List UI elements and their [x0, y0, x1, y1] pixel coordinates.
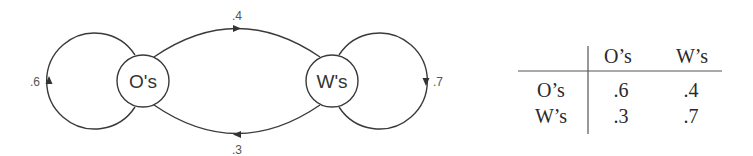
edge-o-to-w [154, 29, 320, 58]
table-cell-w-o: .3 [614, 105, 629, 127]
node-o: O's [117, 55, 169, 107]
arrow-left-icon [233, 131, 241, 138]
edge-label-w-to-o: .3 [232, 143, 242, 156]
node-label-o: O's [129, 71, 157, 92]
edge-label-w-to-w: .7 [433, 75, 443, 89]
table-cell-w-w: .7 [684, 105, 699, 127]
table-col-header-w: W’s [676, 45, 708, 67]
table-cell-o-w: .4 [684, 79, 699, 101]
markov-diagram: .6 .4 .3 .7 O's W's O’s W’s O’s .6 .4 W’… [0, 0, 753, 156]
edge-w-to-o [154, 105, 320, 134]
transition-table: O’s W’s O’s .6 .4 W’s .3 .7 [518, 45, 722, 134]
arrow-right-icon [233, 25, 241, 32]
node-w: W's [306, 55, 358, 107]
table-col-header-o: O’s [604, 45, 632, 67]
table-cell-o-o: .6 [614, 79, 629, 101]
edge-label-o-to-o: .6 [30, 75, 40, 89]
table-row-label-o: O’s [537, 79, 565, 101]
edge-label-o-to-w: .4 [232, 9, 242, 23]
arrow-down-icon [423, 78, 430, 86]
node-label-w: W's [316, 71, 347, 92]
table-row-label-w: W’s [535, 105, 567, 127]
